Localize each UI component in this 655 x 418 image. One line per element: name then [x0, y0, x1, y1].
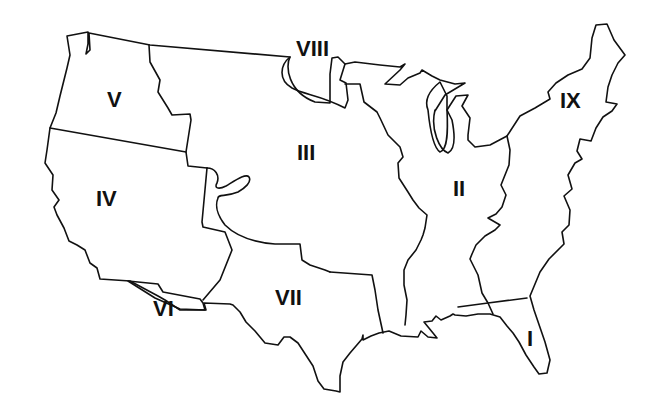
boundary-v-iv — [50, 128, 186, 152]
boundary-v-iii — [149, 45, 207, 168]
label-region-ix: IX — [560, 88, 581, 113]
boundary-iii-ii — [345, 84, 427, 325]
label-region-ii: II — [453, 176, 465, 201]
label-region-iv: IV — [96, 186, 117, 211]
label-region-vii: VII — [275, 285, 302, 310]
boundary-vii-ii — [330, 272, 383, 333]
label-region-v: V — [107, 87, 122, 112]
region-labels: I II III IV V VI VII VIII IX — [96, 36, 581, 351]
boundary-i-north — [458, 298, 527, 307]
boundary-loop — [207, 168, 330, 272]
label-region-iii: III — [297, 140, 315, 165]
lake-michigan — [427, 82, 448, 152]
label-region-i: I — [527, 326, 533, 351]
us-regions-map: I II III IV V VI VII VIII IX — [0, 0, 655, 418]
us-outline — [45, 24, 625, 392]
label-region-vi: VI — [153, 296, 174, 321]
label-region-viii: VIII — [296, 36, 329, 61]
boundary-ii-i — [470, 136, 510, 314]
